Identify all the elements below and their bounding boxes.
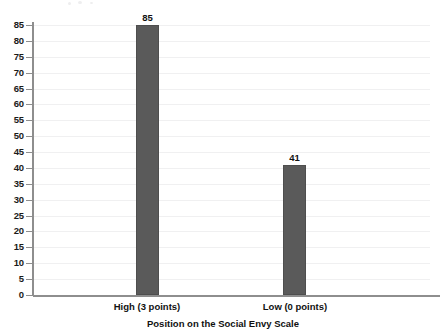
y-axis-tick-label: 45	[0, 147, 24, 157]
plot-area	[33, 25, 430, 295]
grid-line	[33, 41, 430, 42]
grid-line	[33, 73, 430, 74]
y-axis-tick-label: 65	[0, 84, 24, 94]
y-axis-labels: 8580757065605550454035302520151050	[0, 0, 24, 335]
y-axis-line	[32, 22, 34, 296]
y-axis-tick-label: 50	[0, 131, 24, 141]
y-axis-tick	[26, 216, 32, 217]
grid-line	[33, 168, 430, 169]
grid-line	[33, 247, 430, 248]
bar-low[interactable]	[283, 165, 306, 295]
grid-line	[33, 57, 430, 58]
y-axis-tick	[26, 152, 32, 153]
y-axis-tick	[26, 231, 32, 232]
grid-line	[33, 152, 430, 153]
y-axis-tick-label: 75	[0, 52, 24, 62]
y-axis-tick	[26, 263, 32, 264]
y-axis-tick-label: 35	[0, 179, 24, 189]
grid-line	[33, 231, 430, 232]
x-axis-title: Position on the Social Envy Scale	[0, 319, 446, 329]
y-axis-tick-label: 20	[0, 226, 24, 236]
grid-line	[33, 89, 430, 90]
y-axis-tick	[26, 200, 32, 201]
grid-line	[33, 184, 430, 185]
y-axis-tick	[26, 184, 32, 185]
y-axis-tick	[26, 120, 32, 121]
y-axis-tick	[26, 89, 32, 90]
bar-high[interactable]	[136, 25, 159, 295]
category-label-high: High (3 points)	[87, 302, 207, 312]
x-axis-line	[33, 295, 440, 297]
scan-artifact	[78, 1, 82, 4]
y-axis-tick-label: 70	[0, 68, 24, 78]
bar-chart: 8580757065605550454035302520151050 85 41…	[0, 0, 446, 335]
grid-line	[33, 263, 430, 264]
grid-line	[33, 25, 430, 26]
y-axis-tick	[26, 247, 32, 248]
y-axis-tick-label: 85	[0, 20, 24, 30]
grid-line	[33, 104, 430, 105]
y-axis-tick-label: 60	[0, 99, 24, 109]
y-axis-tick-label: 80	[0, 36, 24, 46]
y-axis-tick	[26, 136, 32, 137]
y-axis-tick	[26, 73, 32, 74]
y-axis-tick-label: 30	[0, 195, 24, 205]
y-axis-tick-label: 55	[0, 115, 24, 125]
y-axis-tick	[26, 41, 32, 42]
y-axis-tick-label: 15	[0, 242, 24, 252]
category-label-low: Low (0 points)	[235, 302, 355, 312]
y-axis-tick-label: 10	[0, 258, 24, 268]
y-axis-tick	[26, 25, 32, 26]
y-axis-tick	[26, 168, 32, 169]
scan-artifact	[68, 2, 71, 5]
y-axis-tick-label: 5	[0, 274, 24, 284]
y-axis-tick	[26, 295, 32, 296]
grid-line	[33, 279, 430, 280]
scan-artifact	[90, 2, 93, 4]
y-axis-tick	[26, 279, 32, 280]
grid-line	[33, 136, 430, 137]
grid-line	[33, 120, 430, 121]
bar-value-high: 85	[129, 13, 166, 23]
y-axis-tick	[26, 104, 32, 105]
y-axis-tick	[26, 57, 32, 58]
grid-line	[33, 216, 430, 217]
grid-line	[33, 200, 430, 201]
bar-value-low: 41	[276, 153, 313, 163]
y-axis-tick-label: 25	[0, 211, 24, 221]
y-axis-tick-label: 0	[0, 290, 24, 300]
y-axis-tick-label: 40	[0, 163, 24, 173]
